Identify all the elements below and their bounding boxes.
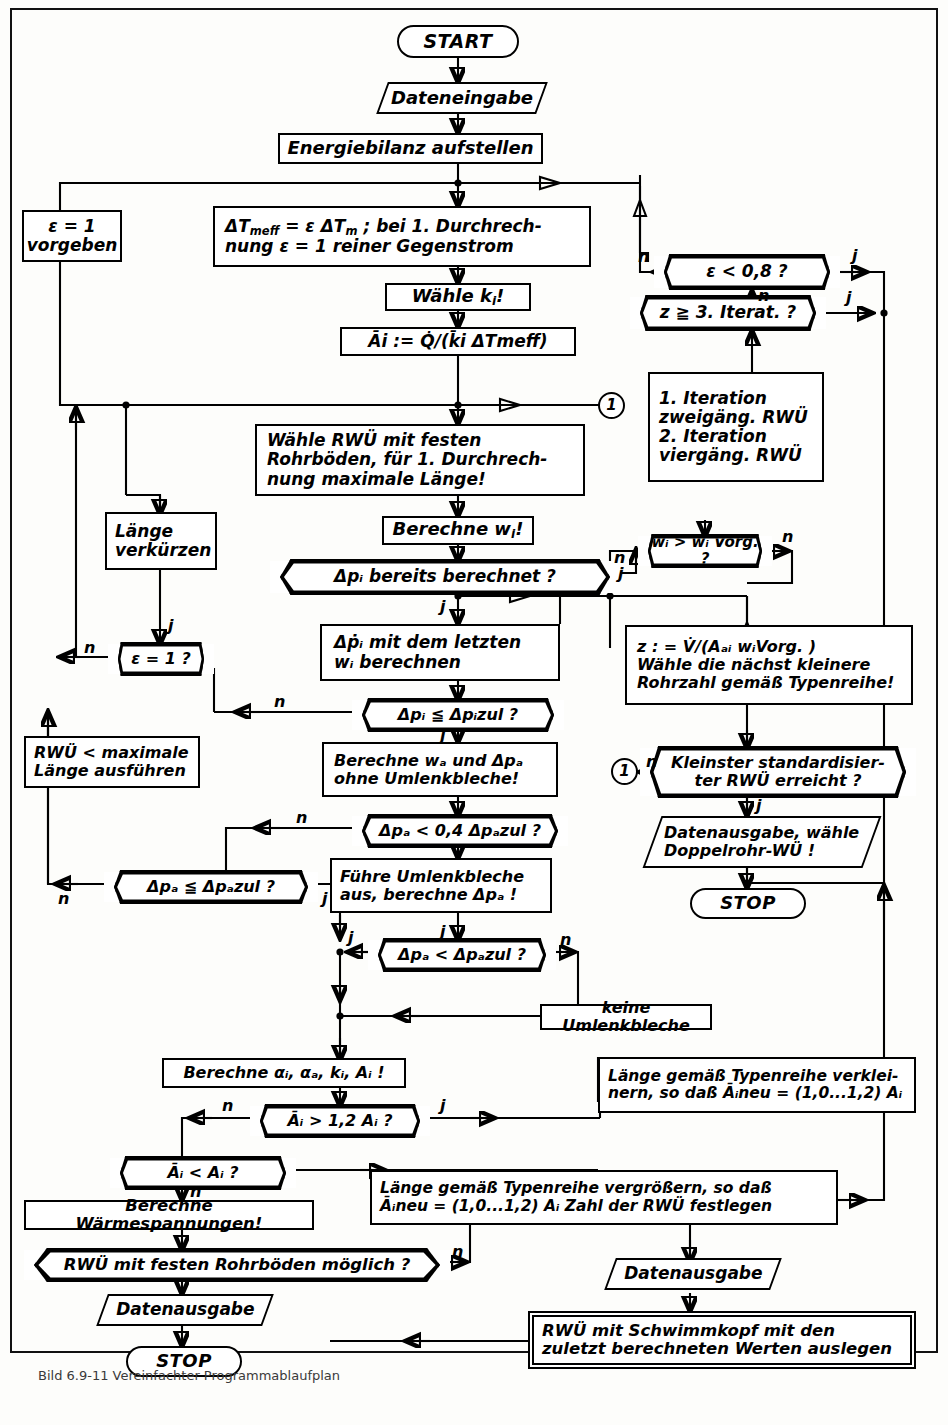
node-dpi-berechnet-label: Δpᵢ bereits berechnet ? [282, 561, 608, 593]
edge-label-feste-n: n [452, 1242, 463, 1261]
node-start[interactable]: START [397, 25, 519, 58]
node-z-def-l2: Wähle die nächst kleinere [637, 656, 870, 674]
node-ai-lt[interactable]: Āᵢ < Aᵢ ? [110, 1158, 296, 1188]
edge-label-eps1-n: n [84, 638, 95, 657]
node-eps-klein[interactable]: ε < 0,8 ? [654, 256, 840, 288]
node-wi-vorg-label: wᵢ > wᵢ Vorg. ? [650, 536, 760, 566]
node-schwimmkopf[interactable]: RWÜ mit Schwimmkopf mit den zuletzt bere… [528, 1311, 916, 1369]
node-laenge-verkleinern[interactable]: Länge gemäß Typenreihe verklei- nern, so… [598, 1057, 916, 1113]
edge-label-dpalt-n: n [560, 930, 571, 949]
node-eps-vorgeben[interactable]: ε = 1 vorgeben [22, 210, 122, 262]
node-eps-ist-1-shape: ε = 1 ? [118, 642, 204, 676]
node-energiebilanz[interactable]: Energiebilanz aufstellen [278, 133, 543, 164]
node-datenausgabe-doppelrohr-label: Datenausgabe, wähle Doppelrohr-WÜ ! [664, 824, 859, 860]
node-dpi-letzten[interactable]: Δṗᵢ mit dem letzten wᵢ berechnen [320, 624, 560, 681]
edge-label-dpaz-j: j [322, 889, 327, 908]
node-laenge-vergroessern[interactable]: Länge gemäß Typenreihe vergrößern, so da… [370, 1170, 838, 1225]
node-dpa-04-shape: Δpₐ < 0,4 Δpₐzul ? [362, 814, 558, 848]
node-dpa-04[interactable]: Δpₐ < 0,4 Δpₐzul ? [352, 816, 568, 846]
node-waehle-ki-label: Wähle ki! [412, 286, 505, 309]
node-berechne-wa[interactable]: Berechne wₐ und Δpₐ ohne Umlenkbleche! [322, 742, 558, 797]
node-eps-ist-1[interactable]: ε = 1 ? [108, 644, 214, 674]
node-ai-lt-label: Āᵢ < Aᵢ ? [122, 1158, 284, 1188]
node-berechne-wa-l1: Berechne wₐ und Δpₐ [334, 752, 523, 770]
connector-1-left[interactable]: 1 [611, 758, 638, 785]
node-laenge-verkuerzen-l1: Länge [115, 522, 173, 541]
node-ai-gt-label: Āᵢ > 1,2 Aᵢ ? [262, 1106, 418, 1136]
node-z-iterat[interactable]: z ≧ 3. Iterat. ? [630, 297, 826, 329]
edge-label-aigt-j: j [440, 1096, 445, 1115]
node-stop-right[interactable]: STOP [690, 888, 806, 919]
node-dpi-zul-shape: Δpᵢ ≦ Δpᵢzul ? [362, 698, 554, 732]
node-ai-gt[interactable]: Āᵢ > 1,2 Aᵢ ? [250, 1106, 430, 1136]
node-dpi-berechnet-shape: Δpᵢ bereits berechnet ? [280, 559, 610, 595]
node-rwue-max-l2: Länge ausführen [34, 762, 186, 780]
node-rwue-max-l1: RWÜ < maximale [34, 744, 189, 762]
node-datenausgabe-3-label: Datenausgabe [624, 1264, 762, 1283]
node-z-iterat-shape: z ≧ 3. Iterat. ? [640, 295, 816, 331]
node-feste-rohrboeden-shape: RWÜ mit festen Rohrböden möglich ? [34, 1248, 440, 1282]
dr-l2: Doppelrohr-WÜ ! [664, 841, 815, 860]
node-ai-gt-shape: Āᵢ > 1,2 Aᵢ ? [260, 1104, 420, 1138]
node-dpa-lt-label: Δpₐ < Δpₐzul ? [380, 940, 544, 970]
edge-label-aigt-n: n [222, 1096, 233, 1115]
node-laenge-verkuerzen[interactable]: Länge verkürzen [105, 512, 217, 570]
edge-label-eps08-n: n [638, 247, 649, 266]
node-waermespannungen[interactable]: Berechne Wärmespannungen! [24, 1200, 314, 1230]
edge-label-z-j: j [846, 288, 851, 307]
node-laenge-verkleinern-l1: Länge gemäß Typenreihe verklei- [608, 1068, 898, 1085]
node-dpa-zul-le[interactable]: Δpₐ ≦ Δpₐzul ? [104, 872, 318, 902]
node-keine-umlenk[interactable]: keine Umlenkbleche [540, 1004, 712, 1030]
node-wi-vorg[interactable]: wᵢ > wᵢ Vorg. ? [638, 536, 772, 566]
node-laenge-verkuerzen-l2: verkürzen [115, 541, 211, 560]
node-dpa-04-label: Δpₐ < 0,4 Δpₐzul ? [364, 816, 556, 846]
node-iterationen-l4: viergäng. RWÜ [659, 446, 802, 465]
node-datenausgabe-2[interactable]: Datenausgabe [96, 1294, 274, 1326]
edge-label-kleinst-j: j [756, 796, 761, 815]
node-datenausgabe-2-label: Datenausgabe [116, 1300, 254, 1319]
edge-label-dpizul-n: n [274, 692, 285, 711]
node-berechne-alpha[interactable]: Berechne αᵢ, αₐ, kᵢ, Aᵢ ! [162, 1058, 406, 1088]
node-fuehre-umlenk-l2: aus, berechne Δpₐ ! [340, 886, 517, 904]
dr-l1: Datenausgabe, wähle [664, 823, 859, 842]
node-iterationen-l2: zweigäng. RWÜ [659, 408, 808, 427]
node-dpa-zul-le-label: Δpₐ ≦ Δpₐzul ? [116, 872, 306, 902]
node-dtmeff-line1: ΔTmeff = ε ΔTm ; bei 1. Durchrech- [225, 217, 542, 238]
node-feste-rohrboeden[interactable]: RWÜ mit festen Rohrböden möglich ? [24, 1250, 450, 1280]
edge-label-z-n: n [758, 286, 769, 305]
edge-label-dpaz-n: n [58, 889, 69, 908]
node-ai-def[interactable]: Āi := Q̇/(k̄i ΔTmeff) [340, 327, 576, 356]
node-waehle-rwue[interactable]: Wähle RWÜ mit festen Rohrböden, für 1. D… [255, 424, 585, 496]
connector-1-right[interactable]: 1 [598, 392, 625, 419]
node-dateneingabe[interactable]: Dateneingabe [376, 82, 548, 114]
node-dpa-lt[interactable]: Δpₐ < Δpₐzul ? [368, 940, 556, 970]
node-dpi-zul[interactable]: Δpᵢ ≦ Δpᵢzul ? [352, 700, 564, 730]
node-feste-rohrboeden-label: RWÜ mit festen Rohrböden möglich ? [36, 1250, 438, 1280]
node-dateneingabe-label: Dateneingabe [391, 88, 533, 108]
node-dtmeff[interactable]: ΔTmeff = ε ΔTm ; bei 1. Durchrech- nung … [213, 206, 591, 267]
node-kleinster-rwue[interactable]: Kleinster standardisier- ter RWÜ erreich… [640, 748, 916, 796]
node-dpi-berechnet[interactable]: Δpᵢ bereits berechnet ? [270, 561, 620, 593]
node-dpa-zul-le-shape: Δpₐ ≦ Δpₐzul ? [114, 870, 308, 904]
node-iterationen[interactable]: 1. Iteration zweigäng. RWÜ 2. Iteration … [648, 372, 824, 482]
node-rwue-max[interactable]: RWÜ < maximale Länge ausführen [24, 736, 200, 788]
edge-label-eps1-j: j [168, 616, 173, 635]
node-waehle-rwue-l2: Rohrböden, für 1. Durchrech- [267, 450, 547, 469]
node-schwimmkopf-l1: RWÜ mit Schwimmkopf mit den [542, 1322, 835, 1340]
node-fuehre-umlenk[interactable]: Führe Umlenkbleche aus, berechne Δpₐ ! [330, 858, 552, 913]
node-iterationen-l3: 2. Iteration [659, 427, 767, 446]
node-waehle-rwue-l1: Wähle RWÜ mit festen [267, 431, 481, 450]
flowchart-page: START Dateneingabe Energiebilanz aufstel… [0, 0, 948, 1425]
node-dtmeff-line2: nung ε = 1 reiner Gegenstrom [225, 237, 514, 256]
node-z-iterat-label: z ≧ 3. Iterat. ? [642, 297, 814, 329]
node-waehle-ki[interactable]: Wähle ki! [385, 283, 531, 311]
node-datenausgabe-3[interactable]: Datenausgabe [604, 1258, 782, 1290]
node-berechne-wa-l2: ohne Umlenkbleche! [334, 770, 519, 788]
node-datenausgabe-doppelrohr[interactable]: Datenausgabe, wähle Doppelrohr-WÜ ! [643, 816, 882, 868]
node-eps-klein-label: ε < 0,8 ? [666, 256, 828, 288]
node-dpi-zul-label: Δpᵢ ≦ Δpᵢzul ? [364, 700, 552, 730]
node-berechne-wi[interactable]: Berechne wi! [382, 516, 534, 545]
node-laenge-vergroessern-l2: Āᵢneu = (1,0...1,2) Aᵢ Zahl der RWÜ fest… [380, 1198, 772, 1215]
node-fuehre-umlenk-l1: Führe Umlenkbleche [340, 868, 524, 886]
node-z-def[interactable]: z : = V̇/(Aₐᵢ wᵢVorg. ) Wähle die nächst… [625, 625, 913, 705]
